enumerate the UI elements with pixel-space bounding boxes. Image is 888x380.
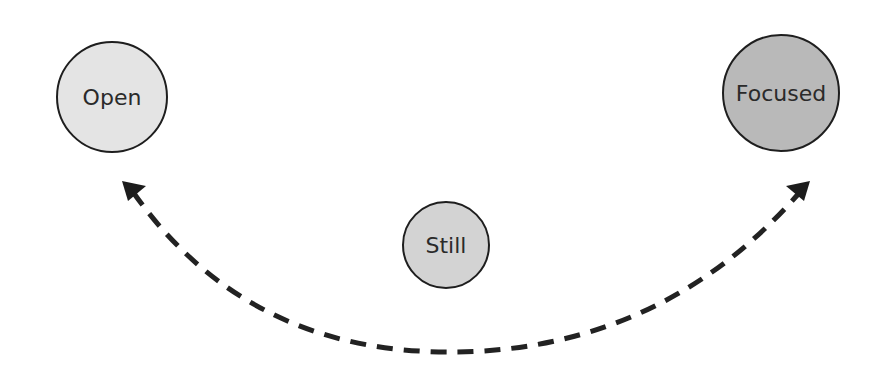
node-focused: Focused (723, 35, 839, 151)
node-still: Still (403, 202, 489, 288)
node-open: Open (57, 42, 167, 152)
arrowhead-left-icon (122, 181, 146, 201)
node-focused-label: Focused (736, 81, 826, 106)
diagram-canvas: Open Still Focused (0, 0, 888, 380)
node-still-label: Still (426, 233, 467, 258)
node-open-label: Open (83, 85, 142, 110)
